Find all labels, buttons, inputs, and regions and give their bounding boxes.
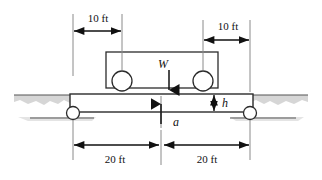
vehicle-front-wheel — [112, 71, 132, 91]
figure-canvas: W a h 10 ft 10 ft 20 ft 20 ft — [0, 0, 322, 180]
engineering-figure: W a h 10 ft 10 ft 20 ft 20 ft — [0, 0, 322, 180]
acceleration-label-a: a — [173, 115, 179, 129]
left-roller-support — [67, 107, 80, 120]
top-left-dimension-label: 10 ft — [88, 12, 108, 24]
vehicle-rear-wheel — [193, 71, 213, 91]
bottom-right-dimension-label: 20 ft — [197, 153, 217, 165]
top-right-dimension-label: 10 ft — [218, 20, 238, 32]
load-label-W: W — [158, 57, 169, 71]
bottom-left-dimension-label: 20 ft — [105, 153, 125, 165]
height-label-h: h — [222, 96, 228, 110]
right-roller-support — [244, 107, 257, 120]
